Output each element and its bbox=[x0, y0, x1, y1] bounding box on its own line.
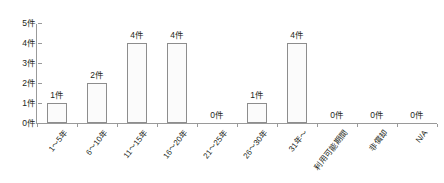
plot-area bbox=[37, 13, 437, 123]
x-tick-mark bbox=[197, 124, 198, 127]
x-category-label-text: 16～20年 bbox=[162, 129, 189, 161]
bar-value-label: 2件 bbox=[77, 71, 117, 80]
bar-value-label: 4件 bbox=[277, 31, 317, 40]
x-tick-mark bbox=[237, 124, 238, 127]
x-category-label-text: 26～30年 bbox=[242, 129, 269, 161]
y-tick-label: 4件 bbox=[14, 39, 36, 48]
bar bbox=[287, 43, 307, 123]
x-category-label-text: 6～10年 bbox=[85, 129, 109, 157]
bar-chart: 0件1件2件3件4件5件 1～5年6～10年11～15年16～20年21～25年… bbox=[0, 0, 444, 183]
x-tick-mark bbox=[37, 124, 38, 127]
bar-value-label: 4件 bbox=[117, 31, 157, 40]
bar-value-label: 0件 bbox=[357, 111, 397, 120]
x-category-label-text: 31年～ bbox=[288, 129, 310, 154]
bar bbox=[247, 103, 267, 123]
bar-value-label: 1件 bbox=[237, 91, 277, 100]
bar bbox=[47, 103, 67, 123]
y-tick-label: 2件 bbox=[14, 79, 36, 88]
bar bbox=[167, 43, 187, 123]
y-tick-label: 3件 bbox=[14, 59, 36, 68]
y-tick-label: 5件 bbox=[14, 19, 36, 28]
x-category-label-text: 利用可能期間 bbox=[313, 129, 349, 172]
bar-value-label: 0件 bbox=[397, 111, 437, 120]
x-tick-mark bbox=[157, 124, 158, 127]
bar-value-label: 1件 bbox=[37, 91, 77, 100]
x-tick-mark bbox=[357, 124, 358, 127]
x-tick-mark bbox=[397, 124, 398, 127]
x-tick-mark bbox=[437, 124, 438, 127]
x-tick-mark bbox=[317, 124, 318, 127]
x-category-label-text: 11～15年 bbox=[123, 129, 150, 160]
bar-value-label: 0件 bbox=[317, 111, 357, 120]
x-tick-mark bbox=[277, 124, 278, 127]
x-tick-mark bbox=[117, 124, 118, 127]
x-category-label-text: 非償却 bbox=[368, 129, 389, 153]
x-category-label-text: 1～5年 bbox=[48, 129, 70, 154]
y-tick-label: 1件 bbox=[14, 99, 36, 108]
x-axis-category-labels: 1～5年6～10年11～15年16～20年21～25年26～30年31年～利用可… bbox=[0, 124, 444, 183]
x-tick-mark bbox=[77, 124, 78, 127]
bar bbox=[87, 83, 107, 123]
bar-value-label: 4件 bbox=[157, 31, 197, 40]
x-category-label-text: 21～25年 bbox=[202, 129, 229, 161]
bar-value-label: 0件 bbox=[197, 111, 237, 120]
x-category-label-text: N/A bbox=[415, 129, 430, 144]
bar bbox=[127, 43, 147, 123]
